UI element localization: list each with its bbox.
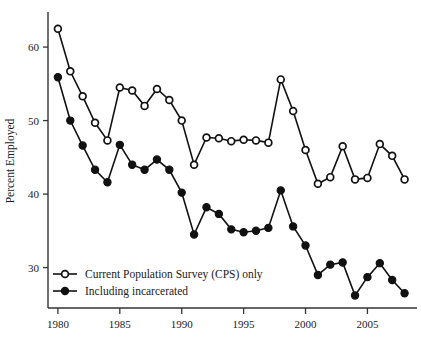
data-point-filled xyxy=(339,259,346,266)
series-line-1 xyxy=(58,77,405,295)
data-point-filled xyxy=(166,166,173,173)
data-point-open xyxy=(55,25,62,32)
data-point-filled xyxy=(277,187,284,194)
data-point-open xyxy=(67,68,74,75)
data-point-filled xyxy=(54,74,61,81)
data-point-open xyxy=(389,152,396,159)
data-point-filled xyxy=(178,189,185,196)
series-group xyxy=(54,25,408,299)
x-tick-label: 2005 xyxy=(356,318,379,330)
data-point-open xyxy=(327,174,334,181)
data-point-filled xyxy=(67,117,74,124)
data-point-filled xyxy=(79,142,86,149)
data-point-filled xyxy=(91,166,98,173)
data-point-filled xyxy=(327,261,334,268)
data-point-filled xyxy=(153,156,160,163)
legend-marker-filled xyxy=(61,287,68,294)
data-point-filled xyxy=(376,260,383,267)
data-point-open xyxy=(352,176,359,183)
data-point-filled xyxy=(302,242,309,249)
data-point-open xyxy=(240,136,247,143)
series-line-0 xyxy=(58,29,405,184)
data-point-filled xyxy=(240,229,247,236)
data-point-filled xyxy=(314,271,321,278)
data-point-open xyxy=(277,76,284,83)
y-axis-title: Percent Employed xyxy=(4,118,17,203)
data-point-open xyxy=(215,135,222,142)
axis-group: 30405060198019851990199520002005Percent … xyxy=(4,12,417,330)
legend-label-0: Current Population Survey (CPS) only xyxy=(85,268,263,281)
data-point-open xyxy=(302,147,309,154)
data-point-open xyxy=(141,102,148,109)
y-tick-label: 50 xyxy=(28,115,40,127)
data-point-open xyxy=(116,84,123,91)
data-point-filled xyxy=(389,276,396,283)
data-point-open xyxy=(178,117,185,124)
x-tick-label: 1990 xyxy=(171,318,194,330)
data-point-filled xyxy=(104,179,111,186)
data-point-filled xyxy=(265,224,272,231)
data-point-filled xyxy=(190,231,197,238)
data-point-open xyxy=(79,93,86,100)
data-point-open xyxy=(228,138,235,145)
data-point-open xyxy=(265,139,272,146)
data-point-open xyxy=(104,137,111,144)
data-point-open xyxy=(92,119,99,126)
data-point-open xyxy=(364,175,371,182)
data-point-filled xyxy=(141,166,148,173)
data-point-filled xyxy=(228,226,235,233)
data-point-open xyxy=(376,141,383,148)
data-point-filled xyxy=(215,210,222,217)
data-point-filled xyxy=(364,274,371,281)
y-tick-label: 40 xyxy=(28,188,40,200)
legend-label-1: Including incarcerated xyxy=(85,285,188,298)
chart-container: 30405060198019851990199520002005Percent … xyxy=(0,0,421,357)
x-tick-label: 1980 xyxy=(47,318,70,330)
data-point-open xyxy=(166,97,173,104)
data-point-open xyxy=(290,108,297,115)
legend-marker-open xyxy=(62,271,69,278)
legend-box xyxy=(47,258,297,304)
y-tick-label: 30 xyxy=(28,262,40,274)
y-tick-label: 60 xyxy=(28,41,40,53)
x-tick-label: 2000 xyxy=(295,318,318,330)
employment-rate-line-chart: 30405060198019851990199520002005Percent … xyxy=(0,0,421,357)
data-point-filled xyxy=(203,204,210,211)
data-point-filled xyxy=(401,290,408,297)
legend-group: Current Population Survey (CPS) onlyIncl… xyxy=(47,258,297,304)
x-tick-label: 1995 xyxy=(233,318,256,330)
data-point-open xyxy=(401,176,408,183)
data-point-filled xyxy=(290,223,297,230)
data-point-open xyxy=(191,161,198,168)
data-point-filled xyxy=(116,141,123,148)
data-point-open xyxy=(203,134,210,141)
x-tick-label: 1985 xyxy=(109,318,132,330)
data-point-filled xyxy=(252,227,259,234)
data-point-open xyxy=(339,143,346,150)
data-point-filled xyxy=(351,292,358,299)
data-point-open xyxy=(315,180,322,187)
data-point-open xyxy=(253,137,260,144)
data-point-open xyxy=(129,87,136,94)
data-point-filled xyxy=(129,161,136,168)
data-point-open xyxy=(154,86,161,93)
